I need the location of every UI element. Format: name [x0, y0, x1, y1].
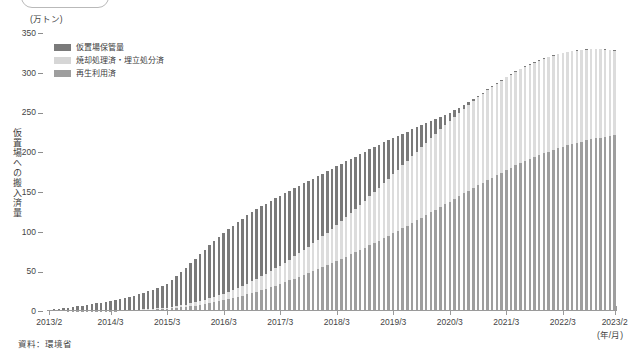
- bar-2015/9: [194, 259, 196, 311]
- legend-label-incinerated-landfilled: 焼却処理済・埋立処分済: [76, 56, 164, 65]
- bar-segment-焼却処理済・埋立処分済: [392, 174, 394, 233]
- bar-segment-仮置場保管量: [189, 263, 191, 303]
- x-tick-label-2015/3: 2015/3: [154, 317, 180, 327]
- bar-segment-仮置場保管量: [444, 115, 446, 125]
- bar-segment-再生利用済: [265, 289, 267, 311]
- bar-2020/12: [491, 86, 493, 311]
- bar-2018/12: [378, 145, 380, 311]
- bar-segment-仮置場保管量: [387, 140, 389, 179]
- bar-segment-焼却処理済・埋立処分済: [368, 196, 370, 245]
- bar-2017/5: [288, 191, 290, 311]
- bar-segment-仮置場保管量: [194, 259, 196, 303]
- bar-segment-焼却処理済・埋立処分済: [260, 276, 262, 290]
- bar-segment-仮置場保管量: [114, 300, 116, 310]
- bar-2015/5: [175, 276, 177, 311]
- bar-segment-仮置場保管量: [208, 245, 210, 298]
- bar-2019/12: [434, 119, 436, 311]
- bar-segment-再生利用済: [444, 204, 446, 311]
- bar-segment-仮置場保管量: [128, 297, 130, 310]
- bar-2022/5: [571, 51, 573, 311]
- bar-segment-仮置場保管量: [213, 241, 215, 297]
- bar-2017/4: [284, 193, 286, 311]
- bar-2021/9: [533, 62, 535, 311]
- bar-segment-仮置場保管量: [227, 229, 229, 292]
- bar-2016/7: [241, 219, 243, 311]
- bar-segment-再生利用済: [613, 135, 615, 311]
- bar-segment-再生利用済: [576, 143, 578, 311]
- bar-segment-焼却処理済・埋立処分済: [416, 152, 418, 221]
- bar-segment-焼却処理済・埋立処分済: [406, 161, 408, 226]
- bar-2016/8: [246, 215, 248, 311]
- bar-2016/5: [232, 226, 234, 311]
- bar-2019/10: [425, 123, 427, 311]
- bar-2022/2: [557, 54, 559, 311]
- y-tick-0: 0: [31, 306, 43, 316]
- x-axis-unit-label: (年/月): [597, 328, 623, 340]
- bar-segment-焼却処理済・埋立処分済: [288, 260, 290, 281]
- x-tick-mark-2019/3: [393, 311, 394, 315]
- y-axis-unit-label: (万トン): [30, 12, 63, 24]
- bar-segment-仮置場保管量: [430, 121, 432, 138]
- x-tick-mark-2017/3: [280, 311, 281, 315]
- bar-segment-再生利用済: [463, 193, 465, 311]
- bar-segment-焼却処理済・埋立処分済: [491, 87, 493, 178]
- bar-segment-再生利用済: [383, 238, 385, 311]
- bar-2016/10: [255, 209, 257, 311]
- bar-segment-焼却処理済・埋立処分済: [449, 121, 451, 202]
- bar-segment-焼却処理済・埋立処分済: [439, 129, 441, 207]
- bar-segment-仮置場保管量: [416, 127, 418, 151]
- bar-segment-仮置場保管量: [345, 161, 347, 217]
- bar-segment-再生利用済: [477, 185, 479, 311]
- bar-2019/8: [416, 127, 418, 311]
- bar-2015/3: [166, 284, 168, 311]
- bar-segment-仮置場保管量: [218, 237, 220, 295]
- bar-2021/12: [547, 57, 549, 311]
- bar-segment-仮置場保管量: [284, 193, 286, 262]
- bar-2017/10: [312, 179, 314, 311]
- bar-segment-再生利用済: [449, 202, 451, 311]
- bar-2016/6: [237, 222, 239, 311]
- bar-segment-再生利用済: [321, 267, 323, 311]
- bar-2019/6: [406, 132, 408, 311]
- bar-segment-焼却処理済・埋立処分済: [350, 213, 352, 254]
- x-tick-label-2020/3: 2020/3: [437, 317, 463, 327]
- chart-page: (万トン) 仮置場への搬入済量 050100150200250300350 (年…: [0, 0, 643, 363]
- bar-segment-仮置場保管量: [222, 233, 224, 294]
- bar-2022/11: [599, 49, 601, 311]
- bar-segment-仮置場保管量: [321, 174, 323, 237]
- bar-segment-焼却処理済・埋立処分済: [383, 183, 385, 238]
- bar-2016/11: [260, 206, 262, 311]
- bar-segment-焼却処理済・埋立処分済: [496, 84, 498, 175]
- bar-segment-焼却処理済・埋立処分済: [293, 256, 295, 278]
- legend-swatch-stored: [54, 44, 71, 51]
- bar-segment-仮置場保管量: [166, 284, 168, 308]
- bar-segment-再生利用済: [510, 168, 512, 311]
- bar-2022/4: [566, 52, 568, 311]
- bar-segment-焼却処理済・埋立処分済: [420, 147, 422, 218]
- x-tick-label-2021/3: 2021/3: [493, 317, 519, 327]
- bar-segment-仮置場保管量: [439, 117, 441, 129]
- bar-segment-再生利用済: [293, 279, 295, 311]
- bar-segment-焼却処理済・埋立処分済: [477, 97, 479, 185]
- bar-segment-再生利用済: [392, 233, 394, 311]
- bar-2020/9: [477, 96, 479, 311]
- bar-2021/5: [514, 71, 516, 311]
- bar-segment-焼却処理済・埋立処分済: [321, 236, 323, 267]
- bar-segment-再生利用済: [425, 215, 427, 311]
- bar-2022/10: [595, 49, 597, 311]
- x-tick-mark-2014/3: [111, 311, 112, 315]
- bar-segment-仮置場保管量: [434, 119, 436, 134]
- bar-segment-仮置場保管量: [293, 188, 295, 256]
- bar-2016/3: [222, 233, 224, 311]
- bar-segment-再生利用済: [514, 165, 516, 311]
- bar-segment-焼却処理済・埋立処分済: [274, 268, 276, 285]
- y-tick-300: 300: [22, 68, 43, 78]
- bar-2020/10: [482, 93, 484, 311]
- bar-segment-仮置場保管量: [364, 152, 366, 201]
- legend-label-recycled: 再生利用済: [76, 69, 116, 78]
- bar-segment-焼却処理済・埋立処分済: [557, 54, 559, 148]
- bar-segment-焼却処理済・埋立処分済: [335, 225, 337, 261]
- bar-segment-仮置場保管量: [307, 181, 309, 247]
- bar-segment-仮置場保管量: [152, 290, 154, 309]
- bar-segment-焼却処理済・埋立処分済: [590, 49, 592, 139]
